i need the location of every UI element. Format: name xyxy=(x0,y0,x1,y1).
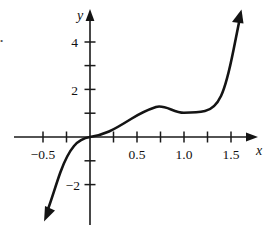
y-tick-labels: 4 2 −2 xyxy=(66,35,80,193)
x-tick-label-0.5: 0.5 xyxy=(129,147,146,162)
y-axis-label: y xyxy=(75,8,84,23)
y-tick-label-2: 2 xyxy=(71,83,78,98)
x-axis-label: x xyxy=(255,143,263,158)
curve-lower-arrowhead xyxy=(44,206,55,222)
x-tick-label--0.5: −0.5 xyxy=(31,147,56,162)
x-axis-arrowhead xyxy=(246,133,258,142)
y-axis-arrowhead xyxy=(86,9,95,21)
x-tick-label-1.0: 1.0 xyxy=(176,147,193,162)
y-tick-label--2: −2 xyxy=(66,178,80,193)
x-axis xyxy=(14,133,258,142)
x-tick-labels: −0.5 0.5 1.0 1.5 xyxy=(31,147,240,162)
y-tick-label-4: 4 xyxy=(71,35,78,50)
plot-canvas: −0.5 0.5 1.0 1.5 4 2 −2 y x xyxy=(0,0,274,240)
x-tick-label-1.5: 1.5 xyxy=(223,147,240,162)
curve-upper-arrowhead xyxy=(232,10,244,24)
graph-figure: • xyxy=(0,0,274,240)
